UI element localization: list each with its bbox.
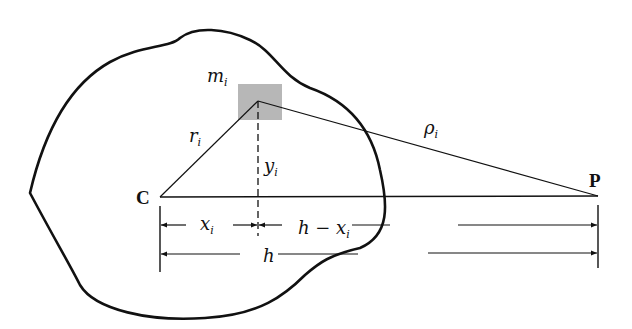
h-minus-x-label: h − xi — [298, 217, 350, 241]
x-label: xi — [200, 213, 214, 237]
rho-label: ρi — [423, 117, 438, 141]
y-label: yi — [263, 155, 278, 179]
axis-line-c-to-p — [160, 196, 598, 197]
h-label: h — [263, 245, 275, 266]
point-p-label: P — [589, 170, 601, 191]
r-vector-line — [160, 101, 258, 197]
mass-distribution-diagram: C P mi ri ρi yi xi h − xi h — [0, 0, 632, 329]
mass-label: mi — [207, 65, 228, 89]
r-label: ri — [189, 125, 201, 149]
rho-vector-line — [258, 101, 598, 196]
point-c-label: C — [136, 187, 150, 208]
